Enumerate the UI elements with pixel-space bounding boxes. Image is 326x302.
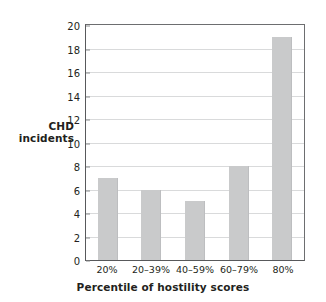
y-axis-tick: 16	[67, 63, 86, 82]
y-axis-title-line-2: incidents	[8, 132, 74, 144]
y-axis-tick: 20	[67, 16, 86, 35]
bar	[141, 190, 161, 261]
x-axis-tick-label: 60–79%	[217, 264, 261, 275]
y-axis-tick: 14	[67, 86, 86, 105]
y-axis-tick-label: 2	[74, 232, 86, 243]
y-axis-tick-label: 4	[74, 209, 86, 220]
y-axis-tick-label: 20	[67, 21, 86, 32]
plot-area: 02468101214161820	[85, 24, 305, 261]
bar-series	[86, 25, 304, 260]
x-axis-tick-label: 40–59%	[173, 264, 217, 275]
y-axis-title: CHD incidents	[8, 120, 74, 144]
x-axis-ticks: 20%20–39%40–59%60–79%80%	[85, 264, 305, 275]
bar-slot	[130, 25, 174, 260]
bar-chart-figure: CHD incidents 02468101214161820 20%20–39…	[0, 0, 326, 302]
bar-slot	[217, 25, 261, 260]
bar-slot	[86, 25, 130, 260]
y-axis-tick: 4	[74, 204, 86, 223]
x-axis-tick-label: 20–39%	[129, 264, 173, 275]
y-axis-tick-label: 8	[74, 162, 86, 173]
y-axis-tick-label: 14	[67, 91, 86, 102]
y-axis-tick: 18	[67, 39, 86, 58]
y-axis-tick: 2	[74, 227, 86, 246]
bar	[185, 201, 205, 260]
x-axis-tick-label: 20%	[85, 264, 129, 275]
y-axis-tick-label: 16	[67, 68, 86, 79]
bar	[229, 166, 249, 260]
bar	[272, 37, 292, 260]
bar-slot	[260, 25, 304, 260]
y-axis-tick-mark	[86, 261, 90, 262]
y-axis-tick: 6	[74, 180, 86, 199]
y-axis-title-line-1: CHD	[8, 120, 74, 132]
y-axis-tick-label: 18	[67, 44, 86, 55]
y-axis-tick-label: 6	[74, 185, 86, 196]
bar	[98, 178, 118, 260]
x-axis-title: Percentile of hostility scores	[0, 281, 326, 293]
x-axis-tick-label: 80%	[261, 264, 305, 275]
y-axis-tick: 8	[74, 157, 86, 176]
bar-slot	[173, 25, 217, 260]
